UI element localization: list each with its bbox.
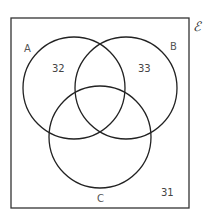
region-a-only-value: 32 [52,63,65,74]
universal-set-symbol: ℰ [193,19,202,34]
set-label-a: A [24,43,31,54]
set-label-c: C [97,193,104,204]
venn-diagram: ℰ A B C 32 33 31 [0,0,213,218]
region-b-only-value: 33 [138,63,151,74]
circle-a [23,37,125,139]
set-label-b: B [170,41,177,52]
region-outside-value: 31 [161,187,174,198]
universal-set-box [11,18,189,208]
circle-b [75,37,177,139]
circle-c [49,86,151,188]
